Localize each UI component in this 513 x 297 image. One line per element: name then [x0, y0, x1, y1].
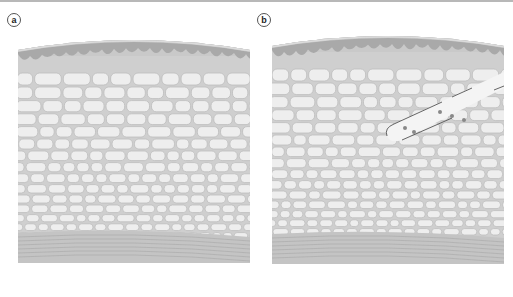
top-rule [0, 0, 513, 2]
panel-label-a: a [7, 13, 21, 27]
panel-label-b: b [257, 13, 271, 27]
tissue-cross-section-b [272, 24, 504, 264]
tissue-cross-section-a [18, 28, 250, 263]
panel-a-tissue-diagram [18, 28, 250, 263]
panel-b-tissue-diagram [272, 24, 504, 264]
